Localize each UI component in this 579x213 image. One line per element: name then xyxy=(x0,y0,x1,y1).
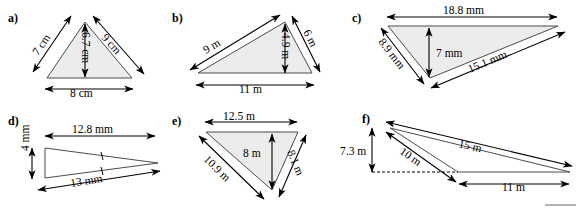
dimension-label-f-height: 7.3 m xyxy=(340,145,366,157)
part-label-e: e) xyxy=(172,114,181,128)
dimension-label-d-top: 12.8 mm xyxy=(72,123,113,135)
dimension-label-f-left: 10 m xyxy=(398,145,424,168)
figure-b: b) 9 m 6 m 4.9 m 11 m xyxy=(172,11,320,95)
part-label-d: d) xyxy=(8,114,19,128)
dimension-label-b-height: 4.9 m xyxy=(280,33,292,59)
part-label-c: c) xyxy=(352,11,361,25)
figure-f: f) 15 m 10 m 7.3 m 11 m xyxy=(340,112,572,193)
dimension-label-e-height: 8 m xyxy=(243,147,261,159)
dimension-label-a-left: 7 cm xyxy=(30,32,53,58)
dimension-label-c-height: 7 mm xyxy=(436,47,463,59)
part-label-b: b) xyxy=(172,11,183,25)
figure-sheet: a) 7 cm 9 cm 6.7 cm 8 cm b) 9 m 6 m xyxy=(0,0,579,213)
dimension-label-b-right: 6 m xyxy=(301,27,320,48)
part-label-a: a) xyxy=(8,11,18,25)
dimension-label-d-left: 4 mm xyxy=(19,124,31,151)
dimension-label-a-height: 6.7 cm xyxy=(80,32,92,63)
dimension-label-e-top: 12.5 m xyxy=(223,110,255,122)
dimension-label-e-right: 8.1 m xyxy=(285,148,306,177)
dimension-label-f-base: 11 m xyxy=(502,181,525,193)
dimension-label-e-left: 10.9 m xyxy=(202,153,233,184)
figure-a: a) 7 cm 9 cm 6.7 cm 8 cm xyxy=(8,11,144,99)
dimension-label-b-base: 11 m xyxy=(239,83,262,95)
triangles-diagram: a) 7 cm 9 cm 6.7 cm 8 cm b) 9 m 6 m xyxy=(0,0,579,213)
dimension-label-a-base: 8 cm xyxy=(70,87,93,99)
dimension-label-d-bottom: 13 mm xyxy=(69,172,103,189)
dimension-label-c-top: 18.8 mm xyxy=(443,4,484,16)
figure-d: d) 12.8 mm 4 mm 13 mm xyxy=(8,114,160,190)
figure-e: e) 12.5 m 8 m 10.9 m 8.1 m xyxy=(172,110,306,199)
figure-c: c) 18.8 mm 8.9 mm 7 mm 15.1 mm xyxy=(352,4,565,88)
part-label-f: f) xyxy=(362,112,370,126)
